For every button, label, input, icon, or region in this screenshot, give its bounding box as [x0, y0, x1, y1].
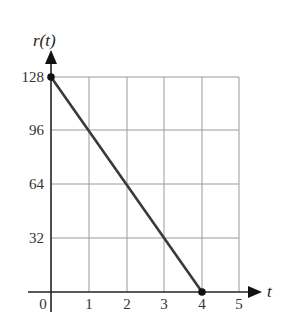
line-chart: r(t) t 128 96 64 32 0 1 2 3 4 5 — [0, 0, 291, 331]
y-tick-32: 32 — [29, 230, 44, 246]
y-tick-64: 64 — [29, 176, 45, 192]
x-tick-4: 4 — [198, 296, 206, 312]
x-axis-arrow-icon — [248, 286, 262, 298]
y-axis-label: r(t) — [33, 31, 56, 50]
y-tick-96: 96 — [29, 122, 45, 138]
y-axis-arrow-icon — [45, 50, 57, 64]
x-axis-label: t — [267, 282, 273, 301]
origin-label: 0 — [39, 296, 47, 312]
endpoint-start — [47, 73, 55, 81]
x-tick-1: 1 — [85, 296, 93, 312]
x-tick-3: 3 — [160, 296, 168, 312]
x-tick-5: 5 — [235, 296, 243, 312]
grid — [51, 77, 239, 292]
x-tick-2: 2 — [123, 296, 131, 312]
endpoint-end — [198, 288, 206, 296]
y-tick-128: 128 — [22, 69, 45, 85]
